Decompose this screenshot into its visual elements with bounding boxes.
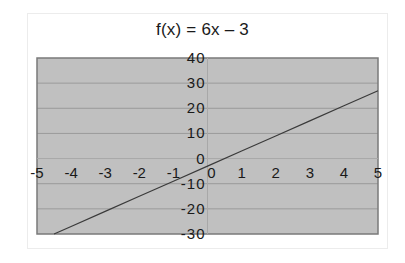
x-tick-label: 3 (306, 164, 314, 181)
y-tick-label: 10 (187, 124, 206, 141)
x-tick-label: 5 (374, 164, 382, 181)
x-tick-label: 2 (272, 164, 280, 181)
y-tick-label: -20 (181, 200, 206, 217)
y-tick-label: 0 (196, 150, 205, 167)
x-tick-label: -3 (99, 164, 112, 181)
x-tick-label: -5 (30, 164, 43, 181)
x-tick-label: 4 (340, 164, 348, 181)
y-tick-label: 40 (187, 49, 206, 66)
x-tick-label: -1 (167, 164, 180, 181)
x-tick-label: 0 (207, 164, 215, 181)
y-tick-label: 20 (187, 99, 206, 116)
plot-area: -30-20-10010203040 -5-4-3-2-1012345 (0, 0, 405, 263)
x-tick-label: 1 (237, 164, 245, 181)
y-tick-label: -30 (181, 225, 206, 242)
x-tick-label: -4 (64, 164, 77, 181)
x-tick-label: -2 (133, 164, 146, 181)
y-tick-label: -10 (181, 175, 206, 192)
y-tick-label: 30 (187, 74, 206, 91)
